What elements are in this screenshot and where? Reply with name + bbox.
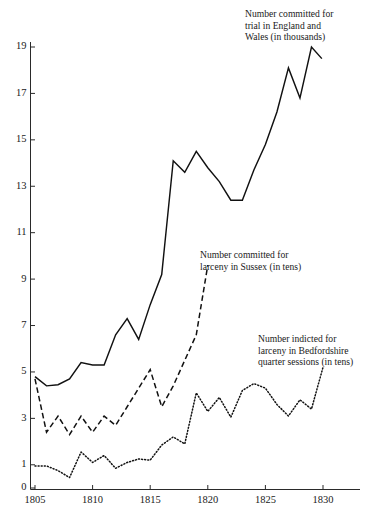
chart-container: 0135791113151719180518101815182018251830… (0, 0, 378, 520)
annotation-bedford-line2: larceny in Bedfordshire (258, 345, 378, 357)
annotation-england-line3: Wales (in thousands) (245, 31, 373, 43)
series-line-1 (35, 265, 208, 434)
annotation-bedfordshire: Number indicted for larceny in Bedfordsh… (258, 333, 378, 368)
annotation-sussex-line1: Number committed for (200, 249, 340, 261)
annotation-sussex-line2: larceny in Sussex (in tens) (200, 261, 340, 273)
y-tick-label: 7 (21, 319, 26, 330)
x-tick-label: 1805 (25, 494, 46, 505)
y-tick-label: 15 (16, 133, 27, 144)
y-tick-label: 5 (21, 365, 26, 376)
y-tick-label: 3 (21, 412, 26, 423)
x-tick-label: 1810 (82, 494, 103, 505)
annotation-bedford-line1: Number indicted for (258, 333, 378, 345)
y-tick-label: 19 (16, 40, 27, 51)
x-tick-label: 1830 (313, 494, 334, 505)
chart-tick-labels: 0135791113151719180518101815182018251830 (16, 40, 334, 504)
annotation-england-line1: Number committed for (245, 8, 373, 20)
y-tick-label: 9 (21, 273, 26, 284)
y-tick-label: 0 (21, 481, 26, 492)
annotation-england-line2: trial in England and (245, 20, 373, 32)
x-tick-label: 1815 (140, 494, 161, 505)
series-line-2 (35, 367, 323, 477)
x-tick-label: 1825 (255, 494, 276, 505)
annotation-england-wales: Number committed for trial in England an… (245, 8, 373, 43)
annotation-sussex: Number committed for larceny in Sussex (… (200, 249, 340, 272)
x-tick-label: 1820 (197, 494, 218, 505)
y-tick-label: 13 (16, 180, 27, 191)
y-tick-label: 1 (21, 458, 26, 469)
y-tick-label: 11 (16, 226, 26, 237)
annotation-bedford-line3: quarter sessions (in tens) (258, 356, 378, 368)
y-tick-label: 17 (16, 87, 27, 98)
